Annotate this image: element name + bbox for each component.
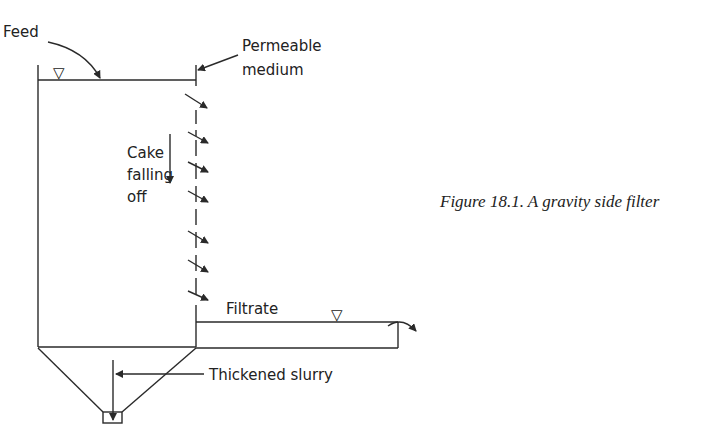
tank-body: [38, 65, 196, 347]
permeable-medium-pointer-arrow: [198, 55, 238, 70]
permeable-medium-label-line2: medium: [242, 61, 304, 79]
permeable-medium-label-line1: Permeable: [242, 37, 322, 55]
cake-label-line2: falling: [127, 166, 173, 184]
filtrate-overflow-arrow: [388, 322, 416, 331]
cake-label-line1: Cake: [127, 144, 164, 162]
filtrate-label: Filtrate: [226, 300, 278, 318]
feed-label: Feed: [3, 23, 39, 41]
tank-liquid-level-symbol: ▽: [53, 64, 65, 82]
filtrate-liquid-level-symbol: ▽: [331, 306, 343, 324]
tank-cone-bottom: [38, 348, 196, 423]
cake-label-line3: off: [127, 188, 147, 206]
thickened-slurry-label: Thickened slurry: [208, 366, 333, 384]
filtrate-channel: [196, 322, 398, 348]
gravity-side-filter-diagram: Feed ▽ Permeable medium Cake falling off…: [0, 0, 711, 425]
figure-caption: Figure 18.1. A gravity side filter: [439, 192, 660, 211]
